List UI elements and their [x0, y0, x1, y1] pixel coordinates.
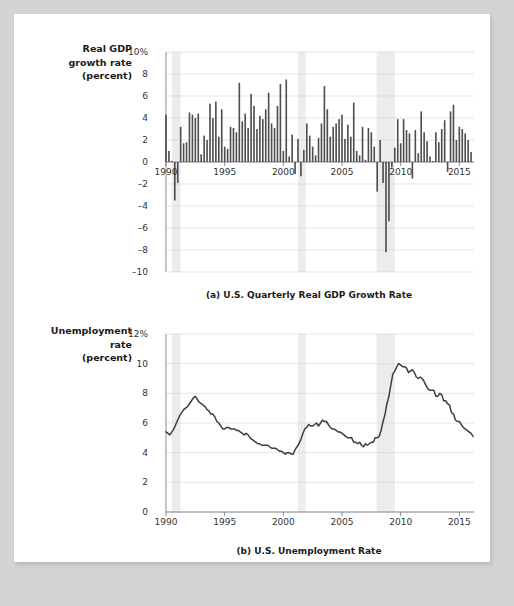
panel-b-xtick-label: 2005 — [322, 517, 362, 527]
panel-b-ytick-label: 8 — [122, 388, 148, 398]
panel-a-axis-title-line-3: (percent) — [22, 69, 132, 83]
figure-page: Real GDP growth rate (percent) 10%86420–… — [0, 0, 514, 606]
panel-a-ytick-label: 6 — [122, 91, 148, 101]
panel-b-svg — [152, 328, 482, 534]
panel-a-svg — [152, 46, 482, 278]
panel-a-ytick-label: –8 — [122, 245, 148, 255]
panel-b-ytick-label: 2 — [122, 477, 148, 487]
panel-a-ytick-label: –4 — [122, 201, 148, 211]
panel-b-axis-title-line-3: (percent) — [22, 351, 132, 365]
panel-b-ytick-label: 12% — [122, 329, 148, 339]
panel-b-ytick-label: 4 — [122, 448, 148, 458]
panel-b-xtick-label: 2010 — [381, 517, 421, 527]
panel-b-axis-title-line-1: Unemployment — [22, 324, 132, 338]
panel-a-xtick-label: 2000 — [263, 167, 303, 177]
panel-b-caption: (b) U.S. Unemployment Rate — [144, 546, 474, 556]
panel-b-ytick-label: 6 — [122, 418, 148, 428]
panel-a-ytick-label: –2 — [122, 179, 148, 189]
panel-a-xtick-label: 2010 — [381, 167, 421, 177]
panel-a-ytick-label: 4 — [122, 113, 148, 123]
panel-b-plot-area: 12%1086420199019952000200520102015 — [152, 328, 482, 534]
panel-a-ytick-label: 8 — [122, 69, 148, 79]
panel-a-ytick-label: –6 — [122, 223, 148, 233]
panel-b-xtick-label: 2015 — [439, 517, 479, 527]
panel-a-caption: (a) U.S. Quarterly Real GDP Growth Rate — [144, 290, 474, 300]
panel-a-axis-title: Real GDP growth rate (percent) — [22, 42, 132, 83]
panel-a-axis-title-line-2: growth rate — [22, 56, 132, 70]
panel-a-xtick-label: 2005 — [322, 167, 362, 177]
panel-a-ytick-label: –10 — [122, 267, 148, 277]
panel-a-ytick-label: 10% — [122, 47, 148, 57]
panel-b-axis-title: Unemployment rate (percent) — [22, 324, 132, 365]
panel-a-xtick-label: 1990 — [146, 167, 186, 177]
panel-a-plot-area: 10%86420–2–4–6–8–10199019952000200520102… — [152, 46, 482, 278]
panel-b-ytick-label: 10 — [122, 359, 148, 369]
panel-a-xtick-label: 1995 — [205, 167, 245, 177]
panel-a-ytick-label: 0 — [122, 157, 148, 167]
panel-b-xtick-label: 2000 — [263, 517, 303, 527]
panel-a-ytick-label: 2 — [122, 135, 148, 145]
panel-a-axis-title-line-1: Real GDP — [22, 42, 132, 56]
panel-b-axis-title-line-2: rate — [22, 338, 132, 352]
panel-b-ytick-label: 0 — [122, 507, 148, 517]
panel-b-xtick-label: 1990 — [146, 517, 186, 527]
figure-sheet: Real GDP growth rate (percent) 10%86420–… — [14, 14, 490, 562]
panel-a-xtick-label: 2015 — [439, 167, 479, 177]
panel-b-xtick-label: 1995 — [205, 517, 245, 527]
